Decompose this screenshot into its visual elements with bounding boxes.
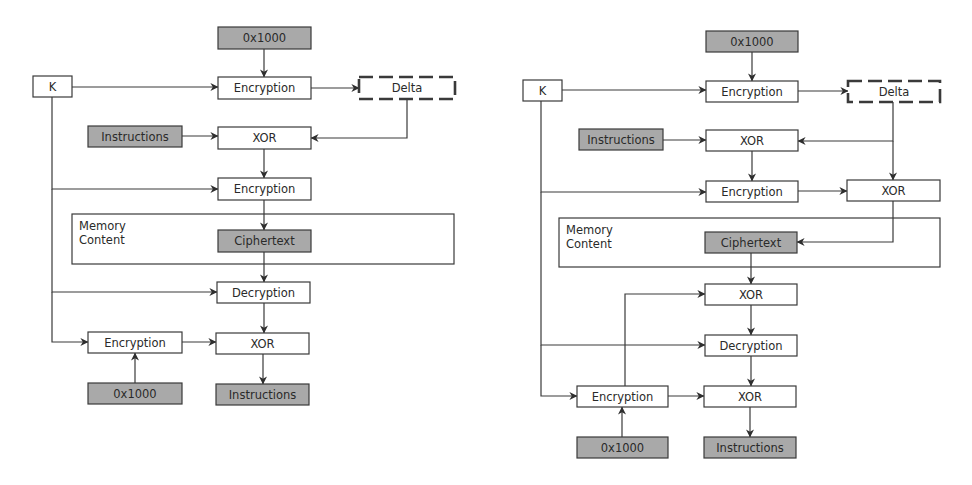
node-xor1: XOR xyxy=(218,127,311,149)
memory-content-label: MemoryContent xyxy=(566,223,613,251)
node-addr-bot: 0x1000 xyxy=(88,383,182,404)
dec-label: Decryption xyxy=(232,286,295,300)
node-k: K xyxy=(33,76,72,97)
enc1-label: Encryption xyxy=(721,85,783,99)
k-label: K xyxy=(49,80,57,94)
node-addr-top: 0x1000 xyxy=(706,31,798,52)
xor1-label: XOR xyxy=(252,131,276,145)
xor3-label: XOR xyxy=(738,390,762,404)
cipher-label: Ciphertext xyxy=(234,234,295,248)
node-instr-out: Instructions xyxy=(216,384,309,405)
encryption-scheme-figure: MemoryContentMemoryContent K0x1000Encryp… xyxy=(0,0,972,485)
arrow-connector xyxy=(52,292,88,342)
enc2-label: Encryption xyxy=(234,182,296,196)
delta-label: Delta xyxy=(392,81,423,95)
node-dec: Decryption xyxy=(217,282,310,303)
node-enc2: Encryption xyxy=(706,181,798,202)
node-dec: Decryption xyxy=(705,335,797,356)
node-addr-bot: 0x1000 xyxy=(577,437,668,458)
arrow-connector xyxy=(52,189,217,292)
instr-out-label: Instructions xyxy=(229,388,297,402)
enc2-label: Encryption xyxy=(721,185,783,199)
node-delta: Delta xyxy=(848,81,940,102)
node-instr-in: Instructions xyxy=(579,129,663,150)
node-xor2: XOR xyxy=(705,284,797,305)
cipher-label: Ciphertext xyxy=(721,236,782,250)
arrow-connector xyxy=(797,201,893,242)
arrow-connector xyxy=(798,102,893,141)
addr-bot-label: 0x1000 xyxy=(113,387,156,401)
xor1-label: XOR xyxy=(740,134,764,148)
node-enc3: Encryption xyxy=(88,332,182,353)
memory-content-label: MemoryContent xyxy=(79,219,126,247)
instr-out-label: Instructions xyxy=(716,441,784,455)
node-xor1: XOR xyxy=(706,130,798,151)
delta-label: Delta xyxy=(879,85,910,99)
node-cipher: Ciphertext xyxy=(705,232,797,253)
node-instr-in: Instructions xyxy=(88,126,182,147)
arrow-connector xyxy=(541,345,577,396)
node-addr-top: 0x1000 xyxy=(218,27,311,49)
node-cipher: Ciphertext xyxy=(218,230,311,252)
k-label: K xyxy=(539,84,547,98)
enc3-label: Encryption xyxy=(104,336,166,350)
instr-in-label: Instructions xyxy=(587,133,655,147)
enc3-label: Encryption xyxy=(592,390,654,404)
arrow-connector xyxy=(625,294,705,386)
xor-delta-label: XOR xyxy=(881,184,905,198)
arrow-connector xyxy=(541,192,705,345)
diagram-canvas: MemoryContentMemoryContent K0x1000Encryp… xyxy=(0,0,972,485)
arrow-connector xyxy=(311,99,407,138)
node-delta: Delta xyxy=(359,77,455,99)
node-k: K xyxy=(523,80,562,101)
enc1-label: Encryption xyxy=(234,81,296,95)
addr-top-label: 0x1000 xyxy=(730,35,773,49)
xor2-label: XOR xyxy=(739,288,763,302)
instr-in-label: Instructions xyxy=(101,130,169,144)
addr-top-label: 0x1000 xyxy=(243,31,286,45)
dec-label: Decryption xyxy=(719,339,782,353)
addr-bot-label: 0x1000 xyxy=(601,441,644,455)
node-enc2: Encryption xyxy=(218,178,311,200)
node-xor3: XOR xyxy=(704,386,796,407)
node-instr-out: Instructions xyxy=(704,437,796,458)
memory-content-regions: MemoryContentMemoryContent xyxy=(72,214,940,267)
node-enc1: Encryption xyxy=(218,77,311,99)
node-xor2: XOR xyxy=(216,333,309,354)
node-enc1: Encryption xyxy=(706,81,798,102)
node-enc3: Encryption xyxy=(577,386,668,407)
left-scheme-nodes: K0x1000EncryptionDeltaInstructionsXOREnc… xyxy=(33,27,455,405)
xor2-label: XOR xyxy=(250,337,274,351)
node-xor-delta: XOR xyxy=(847,180,940,201)
